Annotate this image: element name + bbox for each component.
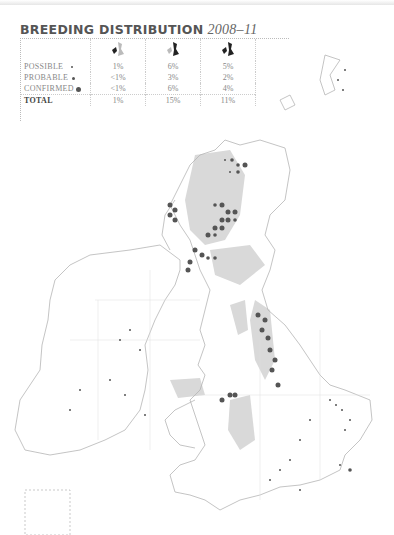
legend-row-possible: POSSIBLE 1% 6% 5% (21, 61, 256, 72)
small-dot-icon (71, 66, 73, 68)
medium-dot-icon (72, 77, 75, 80)
coastline (15, 55, 372, 510)
britain-highlighted-map-icon (146, 39, 201, 61)
ireland-highlighted-map-icon (91, 39, 146, 61)
record-dots (69, 69, 352, 491)
large-dot-icon (76, 87, 81, 92)
legend-row-probable: PROBABLE <1% 3% 2% (21, 72, 256, 83)
legend-table: POSSIBLE 1% 6% 5% PROBABLE <1% 3% 2% CON… (20, 38, 289, 121)
inset-box (25, 490, 70, 535)
legend-row-total: TOTAL 1% 15% 11% (21, 95, 256, 107)
uk-ireland-map-icon (201, 39, 256, 61)
legend-row-confirmed: CONFIRMED <1% 6% 4% (21, 83, 256, 95)
grid-lines (70, 270, 370, 500)
